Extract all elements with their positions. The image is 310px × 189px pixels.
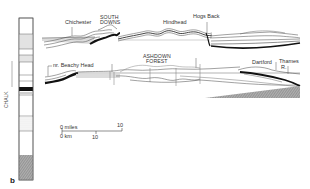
label-dartford: Dartford (252, 59, 272, 65)
upper-cross-section (42, 22, 300, 48)
label-south-downs-line2: DOWNS (100, 19, 120, 25)
label-hogs-back: Hogs Back (193, 13, 220, 19)
stratigraphic-column (12, 18, 33, 180)
chalk-label: CHALK (3, 88, 11, 108)
scale-miles-label: 0 miles (60, 124, 77, 130)
label-ashdown-line2: FOREST (146, 58, 168, 64)
scale-km-label: 0 km (60, 133, 72, 139)
label-beachy-head: nr. Beachy Head (53, 62, 94, 68)
panel-label: b (10, 176, 15, 185)
scale-miles-end: 10 (117, 122, 123, 128)
label-chichester: Chichester (65, 19, 91, 25)
geological-cross-section-figure (0, 0, 310, 189)
scale-km-mid: 10 (92, 134, 98, 140)
label-thames-line2: R. (281, 64, 287, 70)
label-hindhead: Hindhead (163, 19, 187, 25)
